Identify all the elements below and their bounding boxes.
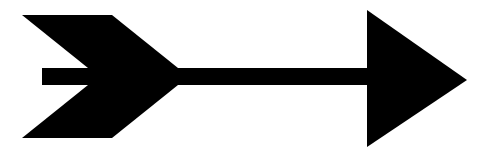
fletching-top [22,15,178,68]
arrow-graphic [0,0,482,152]
arrow-shaft [42,68,372,85]
arrow-head [367,10,467,147]
fletching-bottom [22,85,178,138]
arrow-right-icon [0,0,482,152]
